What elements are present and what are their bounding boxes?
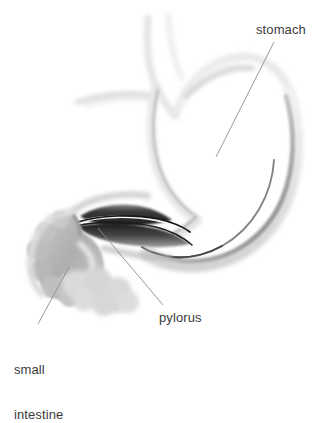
label-small-intestine-line1: small [14, 362, 63, 377]
label-small-intestine: small intestine [14, 332, 63, 423]
label-small-intestine-line2: intestine [14, 407, 63, 422]
label-pylorus: pylorus [159, 310, 202, 325]
label-stomach: stomach [256, 22, 306, 37]
